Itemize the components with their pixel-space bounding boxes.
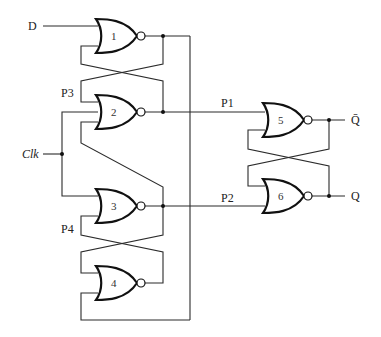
label-clk: Clk (22, 147, 39, 161)
nor-gate-1: 1 (96, 19, 145, 53)
gate-label: 3 (111, 200, 117, 212)
nor-gate-5: 5 (263, 103, 312, 137)
junction-dot (161, 34, 165, 38)
gate-label: 4 (111, 277, 117, 289)
junction-dot (161, 110, 165, 114)
label-d: D (28, 19, 37, 33)
junction-dot (327, 194, 331, 198)
label-p3: P3 (61, 86, 74, 100)
nor-gate-2: 2 (96, 95, 145, 129)
d-flip-flop-circuit: 1 2 3 4 5 6 D Clk P3 P4 P1 P2 Q̄ Q (0, 0, 381, 337)
label-p2: P2 (221, 191, 234, 205)
wires (43, 26, 345, 320)
junction-dot (60, 152, 64, 156)
gate-label: 2 (111, 106, 117, 118)
wire-clk-bus (62, 112, 98, 196)
nor-gate-4: 4 (96, 266, 145, 300)
label-qbar: Q̄ (351, 113, 360, 127)
nor-gate-3: 3 (96, 189, 145, 223)
gate-label: 1 (111, 30, 117, 42)
nor-gate-6: 6 (263, 179, 312, 213)
junction-dot (161, 204, 165, 208)
gate-label: 5 (278, 114, 284, 126)
label-p1: P1 (221, 96, 234, 110)
junction-dot (327, 118, 331, 122)
label-q: Q (351, 189, 360, 203)
gate-label: 6 (278, 190, 284, 202)
label-p4: P4 (61, 222, 74, 236)
